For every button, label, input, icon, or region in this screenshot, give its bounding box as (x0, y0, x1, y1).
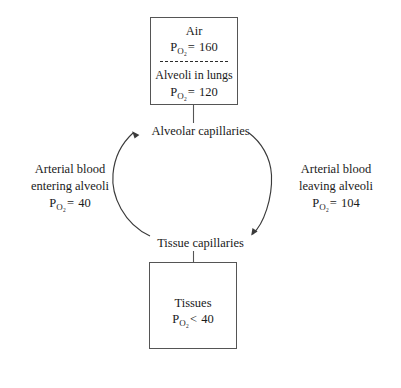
left-branch-po2-operator: = (66, 196, 75, 210)
right-branch-po2-value: PO₂= 104 (272, 195, 400, 216)
left-branch-line2: entering alveoli (6, 178, 134, 195)
arrow-right-downward-path (249, 133, 272, 234)
oxygen-cascade-diagram: Air PO₂= 160 Alveoli in lungs PO₂= 120 A… (0, 0, 401, 388)
tissues-po2-operator: < (189, 312, 198, 326)
air-po2-value: PO₂= 160 (151, 39, 237, 60)
alveoli-label: Alveoli in lungs (151, 67, 237, 84)
alveoli-po2-operator: = (187, 85, 196, 99)
tissues-po2-value: PO₂< 40 (150, 311, 236, 332)
left-branch-po2-number: 40 (78, 196, 91, 210)
left-branch-po2-value: PO₂= 40 (6, 195, 134, 216)
tissues-label: Tissues (150, 295, 236, 312)
right-branch-line1: Arterial blood (272, 161, 400, 178)
tissues-po2-number: 40 (201, 312, 214, 326)
tissues-po2-subscript: O₂ (179, 318, 189, 328)
alveoli-po2-subscript: O₂ (177, 91, 187, 101)
air-alveoli-box: Air PO₂= 160 Alveoli in lungs PO₂= 120 (150, 17, 238, 105)
right-branch-po2-subscript: O₂ (319, 202, 329, 212)
tissue-capillaries-label: Tissue capillaries (0, 236, 401, 251)
air-po2-operator: = (187, 40, 196, 54)
right-branch-po2-operator: = (329, 196, 338, 210)
tissues-box: Tissues PO₂< 40 (149, 262, 237, 349)
dashed-divider (160, 61, 228, 62)
right-branch-label: Arterial blood leaving alveoli PO₂= 104 (272, 161, 400, 216)
left-branch-label: Arterial blood entering alveoli PO₂= 40 (6, 161, 134, 216)
right-branch-po2-number: 104 (341, 196, 360, 210)
air-po2-subscript: O₂ (177, 46, 187, 56)
arrow-right-head (251, 228, 257, 236)
air-po2-number: 160 (199, 40, 218, 54)
alveoli-po2-number: 120 (199, 85, 218, 99)
air-label: Air (151, 23, 237, 40)
left-branch-line1: Arterial blood (6, 161, 134, 178)
alveolar-capillaries-label: Alveolar capillaries (0, 124, 401, 139)
alveoli-po2-value: PO₂= 120 (151, 84, 237, 105)
right-branch-line2: leaving alveoli (272, 178, 400, 195)
left-branch-po2-subscript: O₂ (56, 202, 66, 212)
